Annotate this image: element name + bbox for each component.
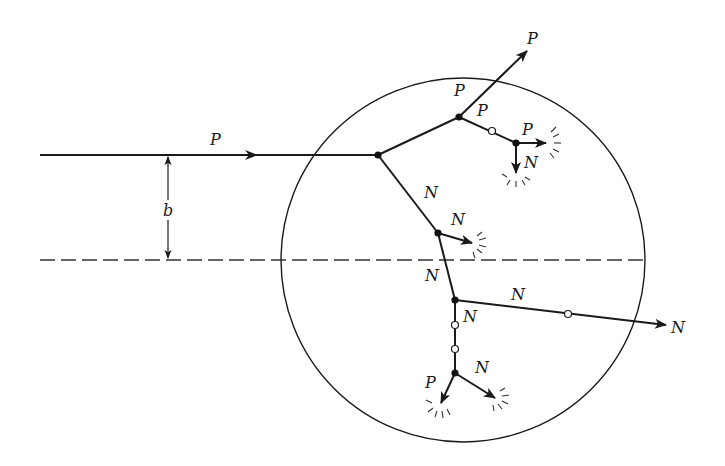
- d-neutron-label: N: [450, 210, 466, 229]
- branch-p-label: P: [476, 101, 488, 120]
- track-b-c: [459, 117, 516, 143]
- collision-vertex-f: [451, 369, 458, 376]
- incident-label: P: [209, 130, 221, 149]
- absorption-burst-icon: [502, 174, 530, 187]
- absorption-burst-icon: [426, 400, 450, 418]
- f-proton-label: P: [424, 373, 436, 392]
- absorption-burst-icon: [493, 388, 509, 411]
- track-b-escape-proton: [459, 51, 527, 117]
- escape-proton-label: P: [526, 29, 538, 48]
- escape-neutron-label: N: [670, 318, 686, 337]
- e-right-neutron-label: N: [510, 285, 526, 304]
- c-proton-label: P: [521, 120, 533, 139]
- absorption-burst-icon: [550, 127, 561, 158]
- absorption-burst-icon: [473, 232, 486, 258]
- inner-proton-label: P: [453, 81, 465, 100]
- blocked-collision-point: [452, 346, 459, 353]
- collision-vertex-e: [451, 296, 458, 303]
- blocked-collision-point: [452, 322, 459, 329]
- a-d-neutron-label: N: [423, 183, 439, 202]
- f-neutron-label: N: [474, 358, 490, 377]
- collision-vertex-d: [434, 229, 441, 236]
- track-f-proton: [441, 373, 455, 403]
- d-e-neutron-label: N: [424, 266, 440, 285]
- c-neutron-label: N: [523, 153, 539, 172]
- impact-parameter-label: b: [163, 201, 173, 220]
- collision-vertex-c: [512, 139, 519, 146]
- collision-vertex-b: [455, 113, 462, 120]
- track-d-e: [438, 233, 455, 300]
- blocked-collision-point: [565, 311, 572, 318]
- cascade-diagram: P b P P P P N N N N: [0, 0, 725, 466]
- e-down-neutron-label: N: [462, 307, 478, 326]
- track-e-escape-neutron: [455, 300, 666, 325]
- blocked-collision-point: [489, 128, 496, 135]
- track-a-b: [378, 117, 459, 155]
- track-d-neutron: [438, 233, 472, 243]
- collision-vertex-a: [374, 151, 381, 158]
